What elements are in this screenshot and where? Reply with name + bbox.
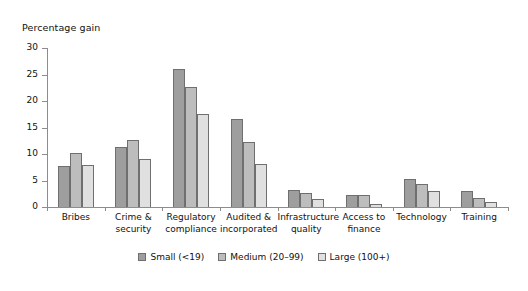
- x-axis-category-label: Crime & security: [105, 212, 163, 235]
- bar-group: [162, 48, 220, 207]
- bar-group: [450, 48, 508, 207]
- x-axis-tick: [220, 207, 221, 211]
- x-axis-category-label: Bribes: [47, 212, 105, 224]
- bar-group-bars: [278, 48, 336, 207]
- bar: [173, 69, 185, 207]
- x-axis-tick: [450, 207, 451, 211]
- bar: [404, 179, 416, 207]
- legend-swatch-icon: [318, 253, 326, 261]
- x-axis-category-label: Audited & incorporated: [220, 212, 278, 235]
- bar-group: [47, 48, 105, 207]
- x-axis-tick: [105, 207, 106, 211]
- bar-group: [393, 48, 451, 207]
- y-axis-tick-label: 30: [27, 42, 38, 52]
- x-axis-category-label: Technology: [393, 212, 451, 224]
- bar-group: [105, 48, 163, 207]
- legend-label: Medium (20–99): [230, 252, 303, 262]
- bar: [231, 119, 243, 207]
- bar: [243, 142, 255, 207]
- x-axis-tick: [278, 207, 279, 211]
- bar: [300, 193, 312, 207]
- x-axis-tick: [162, 207, 163, 211]
- y-axis-tick-label: 0: [32, 201, 38, 211]
- bar-group: [335, 48, 393, 207]
- y-axis-tick-label: 15: [27, 122, 38, 132]
- bar-group: [278, 48, 336, 207]
- bar: [461, 191, 473, 207]
- plot-area: 051015202530 BribesCrime & securityRegul…: [47, 48, 508, 207]
- bar-group-bars: [105, 48, 163, 207]
- bar-group-bars: [335, 48, 393, 207]
- x-axis-category-label: Access to finance: [335, 212, 393, 235]
- y-axis-tick-label: 20: [27, 95, 38, 105]
- bar: [416, 184, 428, 207]
- y-axis-tick-label: 25: [27, 69, 38, 79]
- x-axis-tick: [47, 207, 48, 211]
- bar: [58, 166, 70, 207]
- bar: [288, 190, 300, 207]
- legend-item[interactable]: Small (<19): [138, 252, 204, 262]
- bar: [185, 87, 197, 207]
- y-axis-title: Percentage gain: [22, 22, 100, 33]
- bar-group: [220, 48, 278, 207]
- chart-figure: Percentage gain 051015202530 BribesCrime…: [0, 0, 528, 291]
- bar-group-bars: [162, 48, 220, 207]
- bar: [473, 198, 485, 207]
- legend-item[interactable]: Medium (20–99): [218, 252, 303, 262]
- x-axis-tick: [335, 207, 336, 211]
- bar-group-bars: [450, 48, 508, 207]
- x-axis-category-label: Training: [450, 212, 508, 224]
- bar: [70, 153, 82, 207]
- chart-legend: Small (<19)Medium (20–99)Large (100+): [0, 252, 528, 262]
- bar: [197, 114, 209, 207]
- x-axis-category-label: Infrastructure quality: [278, 212, 336, 235]
- legend-label: Small (<19): [150, 252, 204, 262]
- bar: [139, 159, 151, 207]
- bar: [485, 202, 497, 207]
- y-axis-tick-label: 5: [32, 175, 38, 185]
- bar-group-bars: [220, 48, 278, 207]
- bar: [127, 140, 139, 207]
- bar-group-bars: [393, 48, 451, 207]
- legend-item[interactable]: Large (100+): [318, 252, 390, 262]
- bar: [115, 147, 127, 207]
- x-axis-category-label: Regulatory compliance: [162, 212, 220, 235]
- bar: [82, 165, 94, 207]
- bar: [370, 204, 382, 207]
- legend-swatch-icon: [138, 253, 146, 261]
- legend-label: Large (100+): [330, 252, 390, 262]
- y-axis-tick-label: 10: [27, 148, 38, 158]
- bar: [346, 195, 358, 207]
- bar: [312, 199, 324, 207]
- x-axis-tick: [393, 207, 394, 211]
- bar: [255, 164, 267, 207]
- bar-group-bars: [47, 48, 105, 207]
- x-axis-tick: [508, 207, 509, 211]
- legend-swatch-icon: [218, 253, 226, 261]
- bar: [428, 191, 440, 207]
- bar: [358, 195, 370, 207]
